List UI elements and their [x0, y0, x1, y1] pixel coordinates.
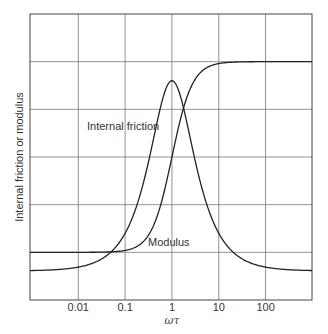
- x-tick-label: 0.01: [68, 301, 89, 313]
- chart: 0.010.1110100 Internal friction Modulus …: [0, 0, 328, 334]
- x-tick-label: 100: [256, 301, 274, 313]
- annotation-internal-friction: Internal friction: [87, 120, 159, 132]
- x-tick-label: 0.1: [117, 301, 132, 313]
- x-axis-label: ωτ: [164, 314, 180, 327]
- annotation-modulus: Modulus: [148, 236, 190, 248]
- x-tick-label: 10: [213, 301, 225, 313]
- grid-lines: [30, 14, 312, 300]
- x-tick-labels: 0.010.1110100: [68, 301, 275, 313]
- y-axis-label: Internal friction or modulus: [13, 92, 25, 222]
- x-tick-label: 1: [169, 301, 175, 313]
